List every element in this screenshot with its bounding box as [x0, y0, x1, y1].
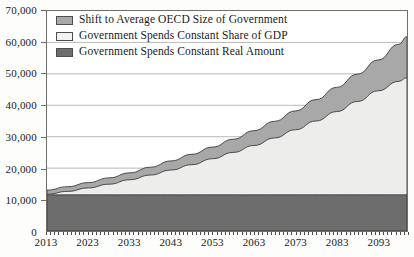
x-axis-tick-mark [304, 232, 305, 235]
x-axis-tick-mark [379, 232, 380, 235]
x-axis-tick-mark [167, 232, 168, 235]
x-axis-tick-mark [179, 232, 180, 235]
chart-legend: Shift to Average OECD Size of Government… [56, 13, 288, 59]
x-axis-tick-mark [225, 232, 226, 235]
x-axis-tick-mark [383, 232, 384, 235]
x-axis-tick-mark [175, 232, 176, 235]
x-axis-tick-mark [275, 232, 276, 235]
chart-container: 010,00020,00030,00040,00050,00060,00070,… [0, 0, 414, 257]
x-axis-tick-mark [337, 232, 338, 235]
x-axis-tick-mark [79, 232, 80, 235]
x-axis-tick-mark [329, 232, 330, 235]
x-axis-tick-mark [333, 232, 334, 235]
legend-swatch [56, 32, 73, 41]
x-axis-tick-mark [196, 232, 197, 235]
x-axis-tick-mark [138, 232, 139, 235]
x-axis-tick-mark [108, 232, 109, 235]
x-axis-tick-mark [341, 232, 342, 235]
x-axis-tick-mark [208, 232, 209, 235]
x-axis-tick-mark [129, 232, 130, 235]
x-axis-tick-mark [204, 232, 205, 235]
x-axis-tick-mark [212, 232, 213, 235]
x-axis-tick-mark [408, 232, 409, 235]
legend-item: Shift to Average OECD Size of Government [56, 13, 288, 27]
x-axis-tick-mark [50, 232, 51, 235]
x-axis-tick-mark [192, 232, 193, 235]
x-axis-tick-mark [100, 232, 101, 235]
x-axis-tick-mark [271, 232, 272, 235]
x-axis-tick-mark [308, 232, 309, 235]
x-axis-tick-mark [150, 232, 151, 235]
legend-swatch [56, 16, 73, 25]
x-axis-tick-label: 2033 [118, 237, 141, 248]
x-axis-tick-mark [287, 232, 288, 235]
x-axis-tick-mark [146, 232, 147, 235]
x-axis-tick-marks [46, 232, 408, 236]
x-axis-tick-mark [163, 232, 164, 235]
y-axis-tick-label: 30,000 [6, 131, 37, 142]
x-axis-tick-mark [229, 232, 230, 235]
x-axis-tick-mark [312, 232, 313, 235]
x-axis-tick-mark [200, 232, 201, 235]
x-axis-tick-mark [133, 232, 134, 235]
x-axis-tick-mark [350, 232, 351, 235]
x-axis-tick-mark [171, 232, 172, 235]
x-axis-tick-mark [254, 232, 255, 235]
area-series [47, 195, 407, 231]
x-axis-tick-mark [117, 232, 118, 235]
x-axis-tick-mark [142, 232, 143, 235]
x-axis-tick-mark [246, 232, 247, 235]
x-axis-tick-mark [362, 232, 363, 235]
x-axis-tick-mark [158, 232, 159, 235]
x-axis-tick-mark [283, 232, 284, 235]
x-axis-tick-mark [404, 232, 405, 235]
x-axis-tick-mark [233, 232, 234, 235]
x-axis-tick-mark [396, 232, 397, 235]
x-axis-tick-mark [46, 232, 47, 235]
x-axis-tick-mark [58, 232, 59, 235]
legend-swatch [56, 48, 73, 57]
y-axis-tick-label: 20,000 [6, 163, 37, 174]
legend-label: Shift to Average OECD Size of Government [79, 14, 287, 26]
y-axis: 010,00020,00030,00040,00050,00060,00070,… [0, 10, 42, 232]
x-axis-tick-mark [325, 232, 326, 235]
x-axis-tick-mark [391, 232, 392, 235]
x-axis-tick-label: 2073 [284, 237, 307, 248]
x-axis-tick-mark [400, 232, 401, 235]
x-axis-tick-label: 2013 [35, 237, 58, 248]
x-axis-tick-mark [221, 232, 222, 235]
x-axis-tick-mark [125, 232, 126, 235]
x-axis-tick-mark [63, 232, 64, 235]
x-axis-tick-label: 2053 [201, 237, 224, 248]
x-axis-tick-mark [113, 232, 114, 235]
x-axis-tick-label: 2063 [243, 237, 266, 248]
y-axis-tick-label: 40,000 [6, 100, 37, 111]
x-axis-tick-mark [366, 232, 367, 235]
x-axis-tick-mark [83, 232, 84, 235]
x-axis-tick-mark [183, 232, 184, 235]
x-axis-tick-mark [242, 232, 243, 235]
x-axis-tick-mark [387, 232, 388, 235]
x-axis-tick-mark [346, 232, 347, 235]
x-axis-tick-mark [258, 232, 259, 235]
x-axis-tick-mark [291, 232, 292, 235]
x-axis-tick-mark [88, 232, 89, 235]
x-axis-tick-mark [237, 232, 238, 235]
x-axis-tick-mark [154, 232, 155, 235]
y-axis-tick-label: 50,000 [6, 68, 37, 79]
x-axis-tick-mark [217, 232, 218, 235]
x-axis: 201320232033204320532063207320832093 [0, 237, 414, 255]
x-axis-tick-label: 2043 [159, 237, 182, 248]
x-axis-tick-mark [54, 232, 55, 235]
x-axis-tick-mark [92, 232, 93, 235]
x-axis-tick-mark [375, 232, 376, 235]
x-axis-tick-mark [67, 232, 68, 235]
y-axis-tick-label: 70,000 [6, 5, 37, 16]
x-axis-tick-mark [354, 232, 355, 235]
y-axis-tick-label: 60,000 [6, 36, 37, 47]
x-axis-tick-mark [371, 232, 372, 235]
x-axis-tick-mark [316, 232, 317, 235]
y-axis-tick-label: 10,000 [6, 195, 37, 206]
x-axis-tick-mark [279, 232, 280, 235]
x-axis-tick-mark [321, 232, 322, 235]
